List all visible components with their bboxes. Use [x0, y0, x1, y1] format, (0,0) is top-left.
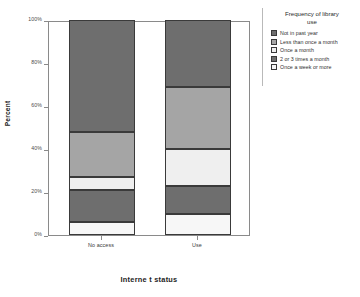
plot-area [48, 21, 250, 236]
bar-segment[interactable] [69, 132, 135, 177]
legend-title-line-1: Frequency of library [285, 10, 339, 17]
y-tick-label: 20% [31, 188, 42, 194]
legend-item[interactable]: Less than once a month [271, 38, 358, 46]
legend-item-label: Once a month [280, 47, 314, 53]
stacked-bar-chart-figure: Percent 100%80%60%40%20%0% No accessUse … [0, 0, 360, 297]
legend-color-swatch [271, 30, 277, 36]
legend-title: Frequency of library use [269, 10, 355, 25]
legend-item[interactable]: 2 or 3 times a month [271, 54, 358, 62]
bar-segment[interactable] [69, 20, 135, 132]
bar-no-access[interactable] [69, 20, 135, 235]
legend-item-list: Not in past yearLess than once a monthOn… [271, 29, 358, 71]
bar-segment[interactable] [69, 177, 135, 190]
legend-item-label: Once a week or more [280, 64, 332, 70]
y-axis-title: Percent [4, 84, 11, 144]
y-tick-label: 0% [34, 231, 42, 237]
bar-segment[interactable] [165, 149, 231, 186]
legend-item[interactable]: Not in past year [271, 29, 358, 37]
bar-segment[interactable] [69, 190, 135, 222]
legend-color-swatch [271, 56, 277, 62]
bar-use[interactable] [165, 20, 231, 235]
bar-segment[interactable] [165, 214, 231, 236]
legend: Frequency of library use Not in past yea… [266, 10, 358, 71]
legend-item-label: Not in past year [280, 30, 318, 36]
legend-color-swatch [271, 47, 277, 53]
x-tick-mark [197, 236, 198, 240]
legend-item-label: 2 or 3 times a month [280, 56, 329, 62]
y-axis: Percent 100%80%60%40%20%0% [0, 0, 48, 260]
bar-segment[interactable] [69, 222, 135, 235]
bar-segment[interactable] [165, 186, 231, 214]
legend-item[interactable]: Once a week or more [271, 63, 358, 71]
y-tick-label: 100% [28, 16, 42, 22]
legend-color-swatch [271, 64, 277, 70]
y-tick-label: 80% [31, 59, 42, 65]
x-axis: No accessUse [48, 236, 250, 276]
legend-item[interactable]: Once a month [271, 46, 358, 54]
legend-title-line-2: use [307, 18, 317, 25]
legend-divider [262, 8, 263, 86]
legend-color-swatch [271, 39, 277, 45]
x-axis-title: Interne t status [48, 275, 250, 284]
bar-segment[interactable] [165, 20, 231, 87]
y-tick-label: 40% [31, 145, 42, 151]
bar-segment[interactable] [165, 87, 231, 149]
x-tick-label: No access [88, 242, 114, 248]
y-tick-label: 60% [31, 102, 42, 108]
legend-item-label: Less than once a month [280, 39, 338, 45]
x-tick-label: Use [192, 242, 202, 248]
x-tick-mark [101, 236, 102, 240]
